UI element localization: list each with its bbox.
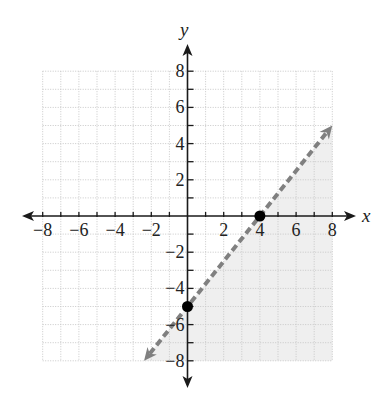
x-tick-label: 2 xyxy=(219,220,228,240)
y-tick-label: −6 xyxy=(165,315,184,335)
x-tick-label: −2 xyxy=(142,220,161,240)
y-tick-label: −2 xyxy=(165,242,184,262)
inequality-graph: −8−6−4−224688642−2−4−6−8 x y xyxy=(0,0,386,401)
y-tick-label: 4 xyxy=(176,134,185,154)
y-tick-label: 6 xyxy=(176,97,185,117)
x-axis-label: x xyxy=(361,205,371,226)
x-tick-label: 6 xyxy=(292,220,301,240)
y-tick-label: −8 xyxy=(165,351,184,371)
y-axis-label: y xyxy=(178,19,189,40)
y-tick-label: −4 xyxy=(165,278,184,298)
intercept-point xyxy=(182,301,193,312)
x-tick-label: −8 xyxy=(33,220,52,240)
y-tick-label: 8 xyxy=(176,61,185,81)
x-tick-label: −4 xyxy=(106,220,125,240)
y-tick-label: 2 xyxy=(176,170,185,190)
x-tick-label: −6 xyxy=(69,220,88,240)
x-tick-label: 8 xyxy=(328,220,337,240)
x-tick-label: 4 xyxy=(255,220,264,240)
